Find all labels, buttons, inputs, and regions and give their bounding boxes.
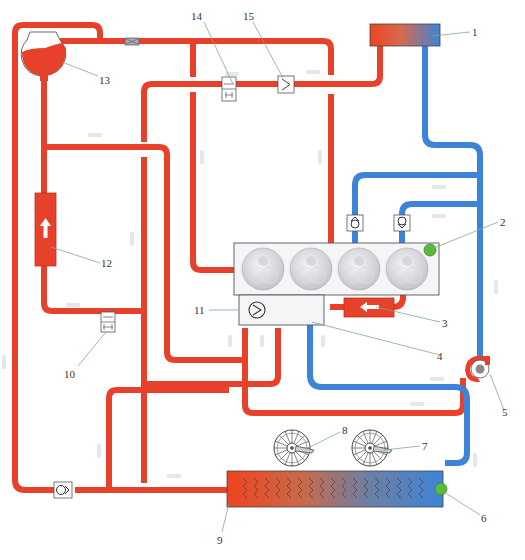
callout-5: 5: [502, 406, 508, 418]
heater-core-12: [35, 193, 56, 266]
callout-2: 2: [500, 216, 506, 228]
cylinder-3: [338, 248, 380, 290]
engine-block: [234, 243, 439, 295]
coolant-pump-5[interactable]: [465, 356, 490, 382]
callout-10: 10: [64, 368, 76, 380]
check-valve-15[interactable]: [278, 76, 294, 93]
temperature-sensor-2: [424, 244, 436, 256]
callout-14: 14: [191, 10, 203, 22]
callout-1: 1: [472, 26, 478, 38]
callout-6: 6: [481, 512, 487, 524]
callout-8: 8: [342, 424, 348, 436]
oil-cooler-3: [344, 298, 394, 317]
callout-15: 15: [243, 10, 255, 22]
cylinder-1: [242, 248, 284, 290]
callout-9: 9: [217, 534, 223, 546]
coolant-housing-4: [239, 295, 324, 325]
heat-exchanger-1: [370, 24, 440, 46]
engine-valve-left[interactable]: [347, 215, 363, 231]
engine-valve-right[interactable]: [394, 215, 410, 231]
callout-7: 7: [422, 440, 428, 452]
callout-4: 4: [437, 350, 443, 362]
main-radiator-9: [227, 471, 443, 507]
cylinder-2: [290, 248, 332, 290]
radiator-fan-7: [352, 430, 392, 466]
callout-12: 12: [101, 257, 112, 269]
expansion-tank: [21, 32, 66, 81]
check-valve-bottom[interactable]: [54, 482, 72, 498]
shutoff-valve-14[interactable]: [222, 77, 236, 101]
callout-11: 11: [194, 304, 205, 316]
callout-3: 3: [442, 317, 448, 329]
shutoff-valve-10[interactable]: [101, 312, 115, 332]
callout-13: 13: [99, 74, 111, 86]
cooling-system-diagram: 1 2 3 4 5 6 7 8 9 10 11 12 13 14 15: [0, 0, 525, 560]
cylinder-4: [386, 248, 428, 290]
